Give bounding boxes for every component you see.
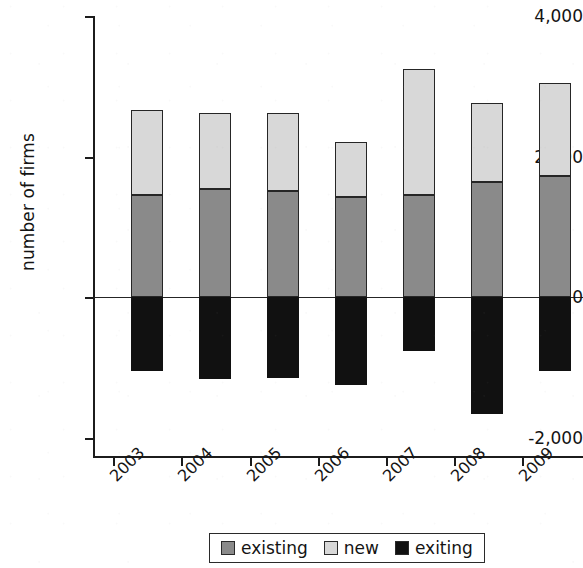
legend-label-exiting: exiting	[415, 538, 473, 558]
y-tick-minus-2000	[85, 438, 94, 440]
legend-item-existing[interactable]: existing	[221, 538, 308, 558]
y-axis-label: number of firms	[18, 112, 38, 292]
bar-segment-exiting-2003	[131, 297, 163, 371]
x-tick-label-2006: 2006	[311, 443, 353, 485]
bar-segment-existing-2009	[539, 176, 571, 297]
x-tick-label-2004: 2004	[174, 443, 216, 485]
bar-segment-existing-2007	[403, 195, 435, 297]
x-tick-label-2005: 2005	[243, 443, 285, 485]
legend-swatch-existing-icon	[221, 541, 235, 555]
bar-segment-exiting-2007	[403, 297, 435, 351]
x-tick-label-2007: 2007	[379, 443, 421, 485]
bar-segment-exiting-2004	[199, 297, 231, 379]
legend-swatch-exiting-icon	[395, 541, 409, 555]
bar-segment-new-2008	[471, 103, 503, 182]
bar-chart-figure: number of firms 4,000 2,000 0 -2,000 200…	[0, 0, 583, 568]
bar-segment-existing-2003	[131, 195, 163, 297]
bar-segment-existing-2004	[199, 189, 231, 297]
bar-segment-new-2006	[335, 142, 367, 197]
bar-segment-existing-2005	[267, 191, 299, 297]
bar-segment-exiting-2009	[539, 297, 571, 371]
bar-segment-exiting-2006	[335, 297, 367, 385]
bar-segment-new-2005	[267, 113, 299, 191]
bar-segment-exiting-2008	[471, 297, 503, 414]
y-axis-line	[93, 16, 95, 457]
bar-segment-existing-2006	[335, 197, 367, 297]
legend: existingnewexiting	[209, 533, 485, 563]
x-tick-label-2008: 2008	[447, 443, 489, 485]
y-tick-2000	[85, 157, 94, 159]
legend-swatch-new-icon	[324, 541, 338, 555]
legend-item-new[interactable]: new	[324, 538, 379, 558]
bar-segment-existing-2008	[471, 182, 503, 297]
legend-label-new: new	[344, 538, 379, 558]
legend-item-exiting[interactable]: exiting	[395, 538, 473, 558]
y-tick-label-4000: 4,000	[503, 6, 583, 26]
x-tick-label-2009: 2009	[515, 443, 557, 485]
legend-label-existing: existing	[241, 538, 308, 558]
bar-segment-new-2004	[199, 113, 231, 189]
bar-segment-exiting-2005	[267, 297, 299, 378]
bar-segment-new-2003	[131, 110, 163, 195]
y-tick-4000	[85, 16, 94, 18]
x-tick-label-2003: 2003	[106, 443, 148, 485]
bar-segment-new-2009	[539, 83, 571, 176]
y-tick-0	[85, 297, 94, 299]
bar-segment-new-2007	[403, 69, 435, 194]
